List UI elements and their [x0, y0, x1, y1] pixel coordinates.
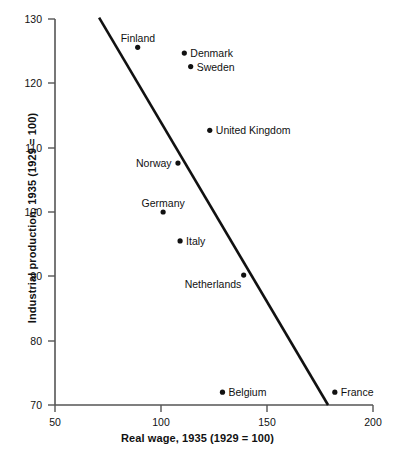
data-point-label: Italy	[186, 235, 205, 247]
data-point-label: France	[341, 386, 374, 398]
data-point-marker	[161, 209, 166, 214]
data-point-marker	[220, 390, 225, 395]
x-axis-title: Real wage, 1935 (1929 = 100)	[0, 432, 395, 444]
trend-line	[99, 18, 328, 405]
data-points-group	[135, 45, 337, 395]
x-tick-marks	[55, 405, 373, 412]
data-point-marker	[177, 238, 182, 243]
scatter-chart-figure: 130 120 110 100 90 80 70 50 100 150 200 …	[0, 0, 395, 456]
x-tick-label-50: 50	[35, 416, 75, 428]
data-point-marker	[188, 64, 193, 69]
data-point-marker	[175, 161, 180, 166]
x-tick-label-100: 100	[141, 416, 181, 428]
y-tick-marks	[48, 19, 55, 405]
data-point-label: United Kingdom	[216, 124, 291, 136]
data-point-label: Belgium	[229, 386, 267, 398]
data-point-label: Netherlands	[185, 278, 242, 290]
y-tick-label-70: 70	[12, 399, 42, 411]
data-point-marker	[207, 128, 212, 133]
data-point-marker	[135, 45, 140, 50]
data-point-label: Germany	[142, 197, 185, 209]
data-point-marker	[182, 51, 187, 56]
data-point-marker	[332, 390, 337, 395]
data-point-label: Norway	[136, 157, 172, 169]
data-point-label: Denmark	[190, 47, 233, 59]
y-axis-title: Industrial production, 1935 (1929 = 100)	[26, 88, 38, 348]
x-tick-label-200: 200	[353, 416, 393, 428]
data-point-label: Sweden	[197, 61, 235, 73]
data-point-marker	[241, 272, 246, 277]
data-point-label: Finland	[121, 32, 155, 44]
x-tick-label-150: 150	[247, 416, 287, 428]
y-tick-label-130: 130	[12, 13, 42, 25]
